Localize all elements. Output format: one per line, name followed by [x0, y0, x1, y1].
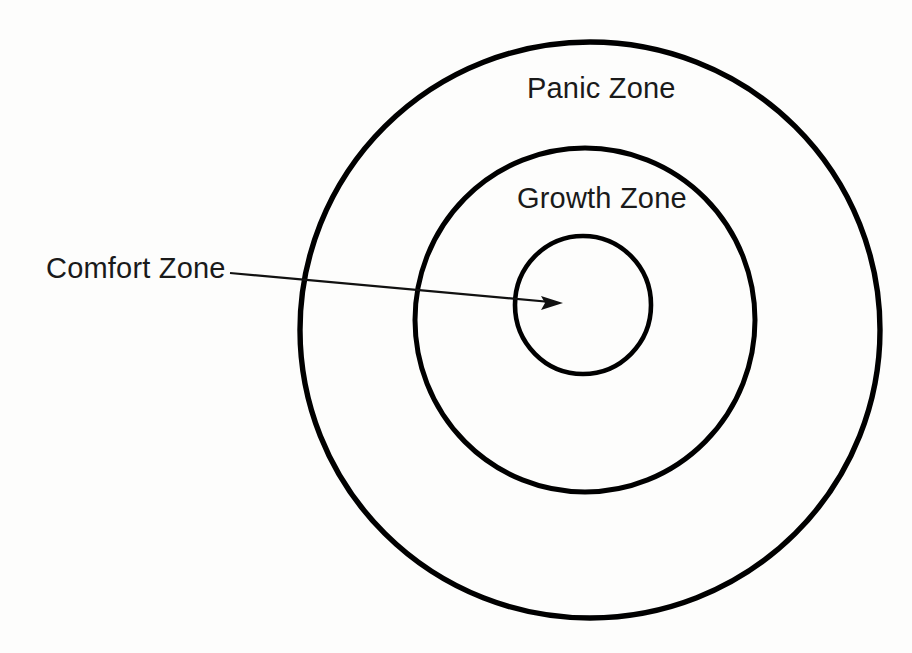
comfort-zone-diagram: Panic Zone Growth Zone Comfort Zone — [0, 0, 912, 653]
comfort-zone-leader-line — [230, 273, 556, 303]
arrow-head-icon — [541, 296, 563, 310]
panic-zone-label: Panic Zone — [527, 74, 676, 103]
concentric-zones-graphic — [0, 0, 912, 653]
panic-zone-circle — [300, 42, 880, 618]
comfort-zone-label: Comfort Zone — [46, 254, 226, 283]
growth-zone-label: Growth Zone — [517, 184, 687, 213]
comfort-zone-circle — [515, 236, 651, 374]
